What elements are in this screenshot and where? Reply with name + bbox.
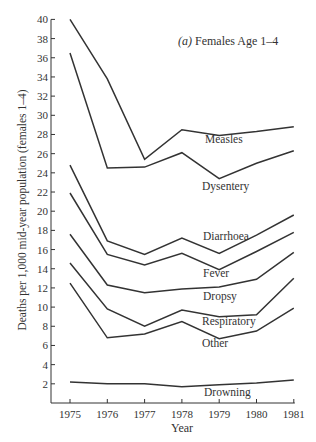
title-prefix: (a) (178, 34, 195, 48)
y-axis-label: Deaths per 1,000 mid-year population (fe… (16, 89, 28, 330)
y-tick-label: 26 (37, 148, 49, 160)
label-measles: Measles (205, 133, 243, 145)
line-dropsy (70, 234, 294, 293)
line-chart: 2468101214161820222426283032343638401975… (0, 0, 316, 442)
label-respiratory: Respiratory (202, 315, 256, 328)
line-drowning (70, 380, 294, 387)
y-tick-label: 4 (43, 359, 49, 371)
label-other: Other (202, 337, 228, 349)
x-tick-label: 1979 (208, 408, 231, 420)
chart-title: (a) Females Age 1–4 (178, 34, 278, 48)
y-tick-label: 30 (37, 109, 49, 121)
label-dysentery: Dysentery (202, 180, 250, 193)
y-tick-label: 12 (37, 282, 48, 294)
y-tick-label: 40 (37, 13, 49, 25)
y-tick-label: 32 (37, 90, 48, 102)
y-tick-label: 14 (37, 263, 49, 275)
x-tick-label: 1975 (59, 408, 82, 420)
label-fever: Fever (203, 267, 229, 279)
label-diarrhoea: Diarrhoea (203, 230, 249, 242)
x-tick-label: 1980 (246, 408, 269, 420)
y-tick-label: 38 (37, 33, 49, 45)
x-tick-label: 1978 (171, 408, 194, 420)
title-text: Females Age 1–4 (195, 34, 278, 48)
y-tick-label: 22 (37, 186, 48, 198)
series-lines (70, 19, 294, 386)
label-drowning: Drowning (204, 386, 251, 399)
x-axis-label: Year (171, 421, 193, 435)
line-fever (70, 193, 294, 270)
y-tick-label: 34 (37, 71, 49, 83)
y-tick-label: 16 (37, 244, 49, 256)
line-diarrhoea (70, 165, 294, 254)
y-tick-label: 2 (43, 378, 49, 390)
line-respiratory (70, 263, 294, 326)
x-tick-label: 1977 (134, 408, 157, 420)
y-tick-label: 20 (37, 205, 49, 217)
x-tick-label: 1976 (96, 408, 119, 420)
y-tick-label: 6 (43, 339, 49, 351)
y-tick-label: 28 (37, 128, 49, 140)
y-tick-label: 8 (43, 320, 49, 332)
label-dropsy: Dropsy (203, 290, 237, 303)
y-tick-label: 24 (37, 167, 49, 179)
y-tick-label: 36 (37, 52, 49, 64)
y-tick-label: 10 (37, 301, 49, 313)
x-tick-label: 1981 (283, 408, 305, 420)
y-tick-label: 18 (37, 224, 49, 236)
